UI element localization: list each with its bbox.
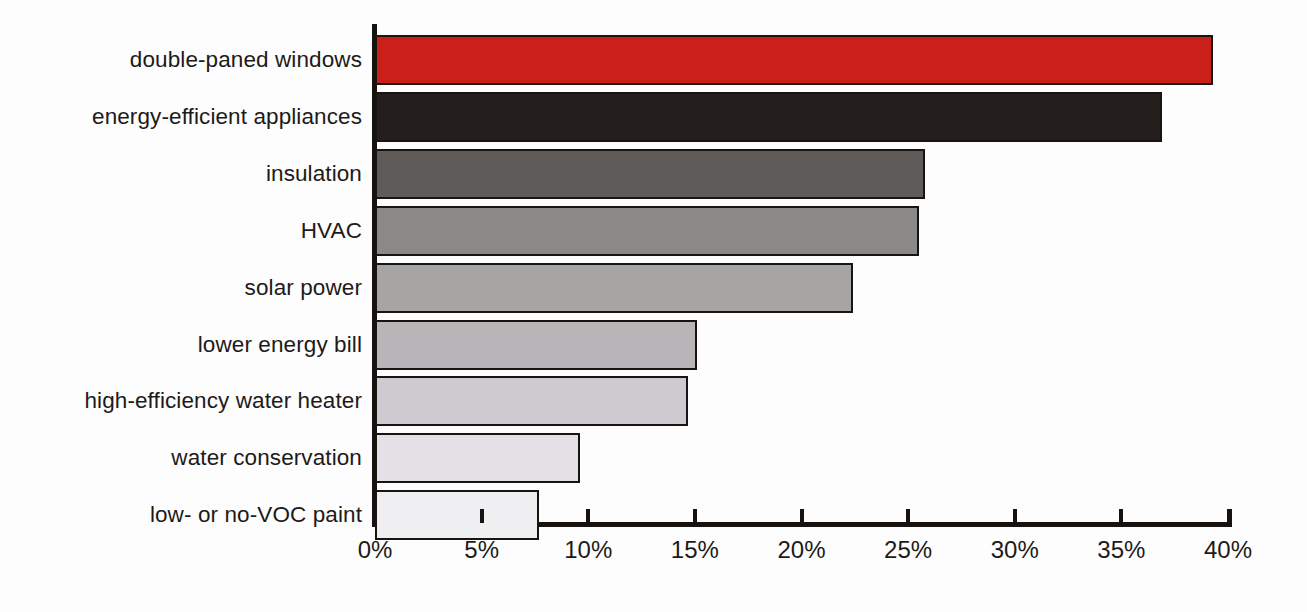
bar-row: HVAC [375, 206, 1228, 256]
bar [375, 35, 1213, 85]
bar [375, 320, 697, 370]
x-axis-tick-label: 0% [358, 536, 393, 564]
x-axis-tick [586, 509, 590, 523]
bar [375, 433, 580, 483]
bar-category-label: high-efficiency water heater [84, 388, 362, 414]
x-axis-tick [1013, 509, 1017, 523]
bar [375, 490, 539, 540]
x-axis-tick [906, 509, 910, 523]
bar-row: water conservation [375, 433, 1228, 483]
x-axis-tick-label: 10% [564, 536, 612, 564]
bar-row: lower energy bill [375, 320, 1228, 370]
bar-category-label: double-paned windows [130, 47, 362, 73]
bar [375, 92, 1162, 142]
x-axis-tick [1119, 509, 1123, 523]
bar [375, 206, 919, 256]
bar-category-label: HVAC [301, 218, 362, 244]
x-axis-tick [480, 509, 484, 523]
x-axis-tick-label: 20% [777, 536, 825, 564]
bar-category-label: water conservation [171, 445, 362, 471]
bar-category-label: solar power [245, 275, 362, 301]
x-axis-tick [800, 509, 804, 523]
bar [375, 263, 853, 313]
bar-row: energy-efficient appliances [375, 92, 1228, 142]
bar-row: solar power [375, 263, 1228, 313]
x-axis-tick-label: 15% [671, 536, 719, 564]
bar [375, 376, 688, 426]
bar-chart: double-paned windowsenergy-efficient app… [0, 0, 1307, 612]
bar-category-label: energy-efficient appliances [92, 104, 362, 130]
x-axis-tick-label: 40% [1204, 536, 1252, 564]
bar-row: insulation [375, 149, 1228, 199]
x-axis-tick-label: 5% [464, 536, 499, 564]
x-axis-tick-label: 35% [1097, 536, 1145, 564]
x-axis-tick [1227, 509, 1232, 527]
bar-category-label: low- or no-VOC paint [150, 502, 362, 528]
bar-category-label: lower energy bill [198, 332, 362, 358]
bar-category-label: insulation [266, 161, 362, 187]
x-axis-tick-label: 30% [991, 536, 1039, 564]
plot-area: double-paned windowsenergy-efficient app… [375, 24, 1228, 525]
bar [375, 149, 925, 199]
bar-row: double-paned windows [375, 35, 1228, 85]
x-axis-tick-label: 25% [884, 536, 932, 564]
x-axis-tick [693, 509, 697, 523]
bar-row: high-efficiency water heater [375, 376, 1228, 426]
